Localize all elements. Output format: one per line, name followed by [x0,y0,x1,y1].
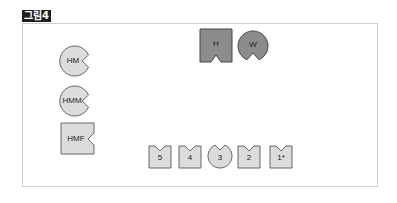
piece-2: 2 [238,146,260,168]
piece-1-label: 1* [277,153,285,162]
piece-hmf-label: HMF [67,134,84,143]
piece-h: H [200,29,232,62]
piece-1: 1* [270,146,292,168]
piece-3: 3 [208,145,232,168]
piece-hm: HM [60,46,89,76]
piece-5: 5 [149,146,171,168]
piece-hmf: HMF [61,123,94,154]
piece-h-label: H [213,39,219,48]
piece-w-label: W [249,40,257,49]
piece-w: W [238,31,268,60]
piece-hm-label: HM [67,56,80,65]
diagram-canvas: H W HM HMM HMF 5 4 3 2 1* [0,0,397,203]
piece-3-label: 3 [218,153,223,162]
piece-hmm: HMM [60,86,89,116]
piece-4-label: 4 [188,153,193,162]
piece-hmm-label: HMM [62,96,81,105]
piece-5-label: 5 [158,153,163,162]
piece-2-label: 2 [247,153,252,162]
piece-4: 4 [179,146,201,168]
